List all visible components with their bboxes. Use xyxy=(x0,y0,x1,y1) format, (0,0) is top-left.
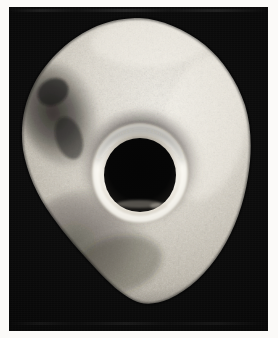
bore-interior-highlight-right xyxy=(150,203,168,209)
stone-body xyxy=(9,7,268,331)
central-perforation xyxy=(78,110,202,234)
specimen-container xyxy=(9,7,268,331)
plate-caption xyxy=(9,331,268,338)
perforated-stone xyxy=(9,7,268,331)
photographic-plate xyxy=(9,7,268,331)
screenshot-root xyxy=(0,0,278,338)
